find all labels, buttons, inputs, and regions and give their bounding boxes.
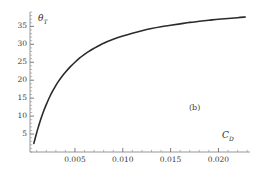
plot-area: 5101520253035 0.0050.0100.0150.020 θT CD… <box>0 0 254 177</box>
panel-label: (b) <box>189 103 200 112</box>
figure-container: 5101520253035 0.0050.0100.0150.020 θT CD… <box>0 0 254 177</box>
x-tick-label: 0.005 <box>55 155 95 164</box>
x-tick-label: 0.010 <box>103 155 143 164</box>
data-curve <box>34 17 245 143</box>
x-tick-label: 0.015 <box>151 155 191 164</box>
x-axis-major-ticks <box>75 148 218 152</box>
y-tick-label: 20 <box>6 75 27 84</box>
chart-svg <box>0 0 254 177</box>
y-tick-label: 30 <box>6 39 27 48</box>
y-tick-label: 10 <box>6 111 27 120</box>
y-axis-major-ticks <box>30 26 34 134</box>
y-tick-label: 15 <box>6 93 27 102</box>
x-tick-label: 0.020 <box>198 155 238 164</box>
y-tick-label: 35 <box>6 21 27 30</box>
y-tick-label: 25 <box>6 57 27 66</box>
x-axis-label-subscript: D <box>229 135 234 142</box>
y-tick-label: 5 <box>6 129 27 138</box>
y-axis-label-subscript: T <box>43 18 47 25</box>
x-axis-label-symbol: C <box>222 130 229 140</box>
y-axis-label: θT <box>38 13 47 25</box>
x-axis-label: CD <box>222 130 234 142</box>
